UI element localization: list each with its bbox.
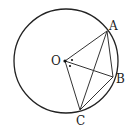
geometry-diagram: O A B C [0,0,137,127]
label-point-o: O [51,54,61,68]
segment-oa [65,31,107,61]
label-point-b: B [116,72,125,86]
angle-mark-dot [69,65,71,67]
segments-group [65,31,113,110]
segment-oc [65,61,80,110]
segment-ob [65,61,113,77]
segment-cb [80,77,113,110]
angle-mark-dot [71,59,73,61]
label-point-c: C [76,114,85,127]
center-point-o [63,59,66,62]
label-point-a: A [108,19,118,33]
